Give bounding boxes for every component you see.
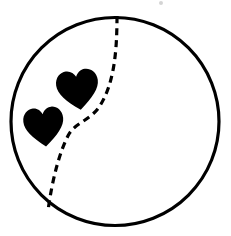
hearts-group <box>22 67 102 148</box>
heart-lower <box>22 106 66 149</box>
speck-top <box>159 1 163 5</box>
heart-lower-shape <box>22 106 66 149</box>
figure-svg <box>0 0 231 236</box>
heart-upper <box>54 67 101 112</box>
heart-upper-shape <box>54 67 101 112</box>
drawing-canvas <box>0 0 231 236</box>
